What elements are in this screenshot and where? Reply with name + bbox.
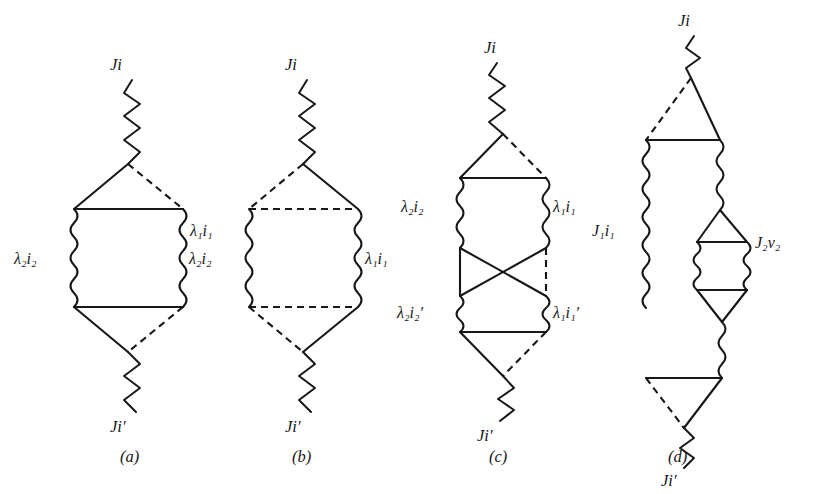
panel-caption-b: (b) — [292, 447, 311, 466]
panel-caption-d: (d) — [668, 447, 687, 466]
panel-b-bottom-label: Ji′ — [285, 417, 301, 436]
coupling-diagrams-figure: Ji Ji′ λ₂i₂ λ₁i₁ — [0, 0, 820, 494]
panel-a-bottom-label: Ji′ — [110, 417, 126, 436]
panel-a-left-label: λ₂i₂ — [13, 250, 37, 267]
panel-c-left-upper-label: λ₂i₂ — [400, 198, 424, 215]
panel-d-bottom-label: Ji′ — [661, 471, 677, 490]
panel-b-left-label: λ₂i₂ — [188, 250, 212, 267]
panel-d-right-label: J₂ν₂ — [755, 234, 781, 251]
panel-a-top-label: Ji — [110, 55, 122, 74]
panel-caption-a: (a) — [120, 447, 139, 466]
panel-caption-c: (c) — [489, 447, 507, 466]
panel-c-left-lower-label: λ₂i₂′ — [396, 304, 424, 321]
panel-c-bottom-label: Ji′ — [477, 426, 493, 445]
panel-c-right-lower-label: λ₁i₁′ — [552, 304, 580, 321]
figure-page: Ji Ji′ λ₂i₂ λ₁i₁ — [0, 0, 820, 494]
panel-d-top-label: Ji — [678, 11, 690, 30]
panel-c-top-label: Ji — [484, 38, 496, 57]
panel-c-right-upper-label: λ₁i₁ — [552, 198, 576, 215]
panel-b-top-label: Ji — [285, 55, 297, 74]
panel-a-right-label: λ₁i₁ — [189, 222, 213, 239]
panel-b-right-label: λ₁i₁ — [364, 250, 388, 267]
panel-d-left-label: J₁i₁ — [592, 222, 615, 239]
